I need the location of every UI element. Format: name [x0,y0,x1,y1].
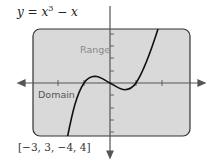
x-axis-right-arrow-icon [198,80,205,86]
x-axis-left-arrow-icon [18,80,25,86]
viewing-window-label: [−3, 3, −4, 4] [18,141,91,153]
y-axis-down-arrow-icon [107,151,113,158]
graph-figure: y = x3 − x [0,0,215,163]
domain-label: Domain [38,89,75,100]
range-label: Range [80,44,110,55]
graph-canvas: Range Domain [0,0,215,163]
